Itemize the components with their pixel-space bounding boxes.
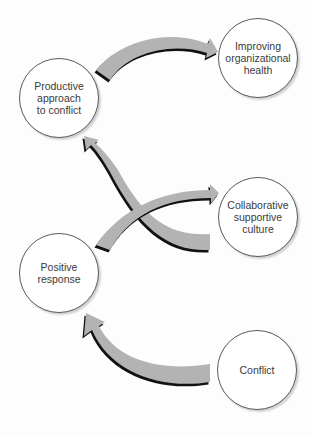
node-label: Improving organizational health xyxy=(225,40,290,76)
arrow-productive-to-improving xyxy=(95,37,219,83)
node-improving-organizational-health: Improving organizational health xyxy=(218,18,298,98)
node-positive-response: Positive response xyxy=(19,233,99,313)
arrow-conflict-to-positive xyxy=(83,313,211,386)
node-label: Conflict xyxy=(239,364,274,376)
node-productive-approach: Productive approach to conflict xyxy=(19,58,99,138)
node-label: Positive response xyxy=(37,261,80,285)
node-collaborative-supportive-culture: Collaborative supportive culture xyxy=(218,177,298,257)
diagram-canvas: Improving organizational health Producti… xyxy=(0,0,313,435)
node-label: Productive approach to conflict xyxy=(34,80,84,116)
node-label: Collaborative supportive culture xyxy=(227,199,288,235)
node-conflict: Conflict xyxy=(217,330,297,410)
